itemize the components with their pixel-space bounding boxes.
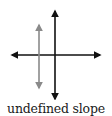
coordinate-diagram (0, 0, 112, 100)
diagram-caption: undefined slope (0, 101, 112, 116)
